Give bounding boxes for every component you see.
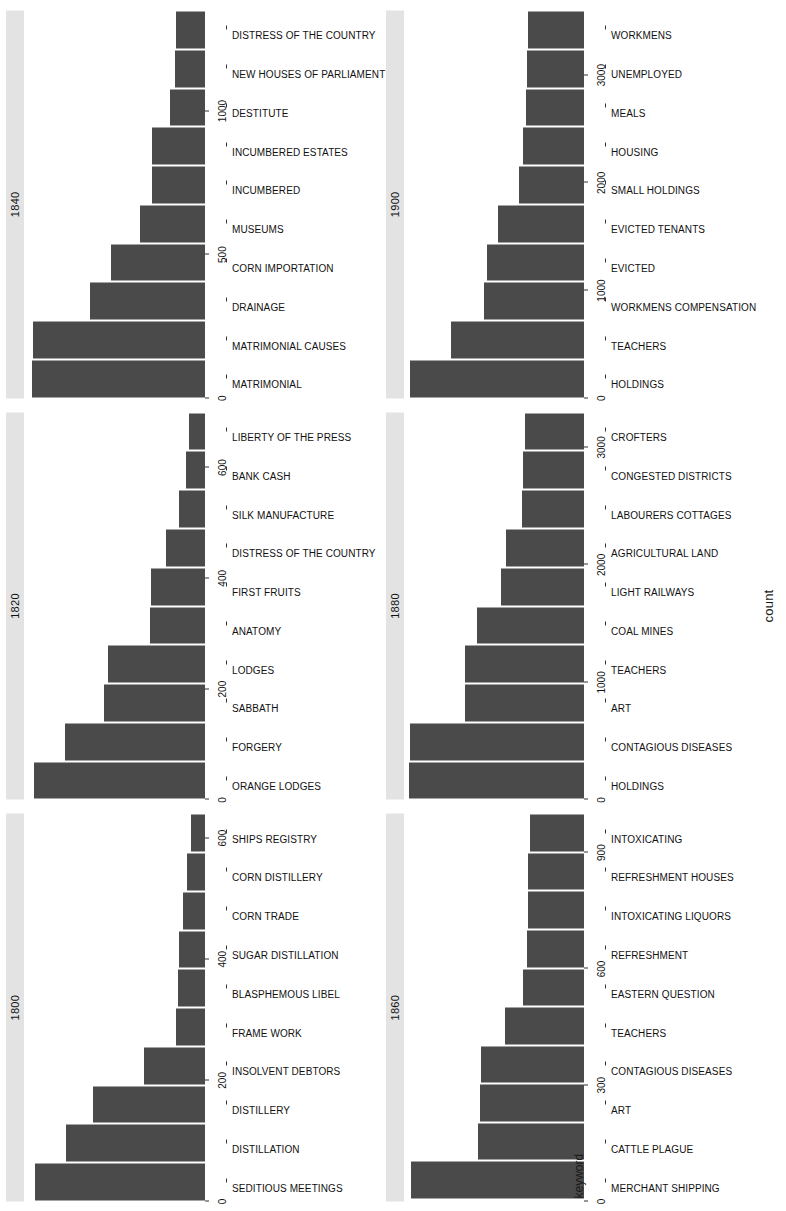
category-label: FRAME WORK <box>232 1027 302 1038</box>
facet-strip-label: 1860 <box>386 813 404 1201</box>
category-label: DISTRESS OF THE COUNTRY <box>232 547 376 558</box>
category-label: SHIPS REGISTRY <box>232 833 317 844</box>
category-label: CORN IMPORTATION <box>232 262 334 273</box>
bar <box>523 969 584 1006</box>
facet-panel-1900: 1900 0100020003000 HOLDINGSTEACHERSWORKM… <box>386 10 760 398</box>
x-tick-label: 3000 <box>596 436 607 458</box>
x-tick-mark <box>584 289 588 290</box>
category-tick-mark <box>226 737 227 741</box>
category-labels: ORANGE LODGESFORGERYSABBATHLODGESANATOMY… <box>230 412 380 800</box>
bar <box>525 413 584 450</box>
category-label: MATRIMONIAL <box>232 378 302 389</box>
category-label: FORGERY <box>232 741 282 752</box>
x-tick-label: 200 <box>217 1072 228 1089</box>
bar <box>140 205 204 242</box>
bar <box>111 244 205 281</box>
x-tick-mark <box>205 253 209 254</box>
category-label: SEDITIOUS MEETINGS <box>232 1182 343 1193</box>
category-tick-mark <box>226 466 227 470</box>
x-tick-mark <box>205 1079 209 1080</box>
category-label: MEALS <box>611 107 645 118</box>
x-tick-mark <box>584 74 588 75</box>
category-label: REFRESHMENT HOUSES <box>611 872 734 883</box>
x-tick-label: 0 <box>596 1198 607 1204</box>
x-tick-marks <box>205 813 217 1201</box>
category-label: TEACHERS <box>611 664 666 675</box>
category-tick-mark <box>226 906 227 910</box>
x-tick-marks <box>205 412 217 800</box>
category-label: ORANGE LODGES <box>232 780 321 791</box>
x-tick-mark <box>205 958 209 959</box>
category-label: HOLDINGS <box>611 378 664 389</box>
category-label: NEW HOUSES OF PARLIAMENT <box>232 68 385 79</box>
category-label: MERCHANT SHIPPING <box>611 1182 720 1193</box>
x-tick-mark <box>205 397 209 398</box>
bar <box>150 607 204 644</box>
category-tick-mark <box>226 1100 227 1104</box>
bar <box>527 50 584 87</box>
category-tick-mark <box>605 776 606 780</box>
x-tick-mark <box>584 1084 588 1085</box>
category-tick-mark <box>226 776 227 780</box>
facet-strip-label: 1840 <box>6 10 24 398</box>
bar <box>501 568 584 605</box>
category-label: DISTILLERY <box>232 1104 290 1115</box>
category-tick-mark <box>605 868 606 872</box>
category-label: WORKMENS <box>611 29 672 40</box>
category-tick-mark <box>605 1100 606 1104</box>
category-label: HOLDINGS <box>611 780 664 791</box>
category-label: CONGESTED DISTRICTS <box>611 470 732 481</box>
category-tick-mark <box>605 582 606 586</box>
category-tick-mark <box>605 25 606 29</box>
category-tick-mark <box>226 1178 227 1182</box>
x-tick-label: 400 <box>217 950 228 967</box>
category-labels: HOLDINGSTEACHERSWORKMENS COMPENSATIONEVI… <box>609 10 759 398</box>
category-label: INCUMBERED <box>232 184 300 195</box>
bar <box>151 568 205 605</box>
bar <box>410 723 584 760</box>
category-tick-mark <box>605 219 606 223</box>
x-tick-labels: 0200400600 <box>217 813 230 1201</box>
category-tick-mark <box>226 142 227 146</box>
figure-stage: 1800 0200400600 SEDITIOUS MEETINGSDISTIL… <box>0 0 786 1211</box>
bar <box>104 684 205 721</box>
facet-figure: 1800 0200400600 SEDITIOUS MEETINGSDISTIL… <box>0 0 786 1211</box>
category-tick-mark <box>226 660 227 664</box>
category-labels: SEDITIOUS MEETINGSDISTILLATIONDISTILLERY… <box>230 813 380 1201</box>
x-tick-mark <box>584 851 588 852</box>
x-axis-title: count <box>759 10 780 1201</box>
bar <box>480 1084 584 1121</box>
category-label: REFRESHMENT <box>611 949 688 960</box>
category-label: FIRST FRUITS <box>232 586 301 597</box>
x-tick-label: 200 <box>217 680 228 697</box>
bar <box>465 684 584 721</box>
category-tick-mark <box>226 64 227 68</box>
plot-area <box>24 10 205 398</box>
facet-grid: 1800 0200400600 SEDITIOUS MEETINGSDISTIL… <box>6 10 759 1201</box>
category-tick-mark <box>226 621 227 625</box>
x-tick-mark <box>205 837 209 838</box>
facet-panel-1860: 1860 keyword 0300600900 MERCHANT SHIPPIN… <box>386 813 760 1201</box>
category-tick-mark <box>226 103 227 107</box>
bar <box>152 166 204 203</box>
category-labels: MERCHANT SHIPPINGCATTLE PLAGUEARTCONTAGI… <box>609 813 759 1201</box>
plot-area <box>24 412 205 800</box>
category-tick-mark <box>605 660 606 664</box>
category-tick-mark <box>605 543 606 547</box>
category-tick-mark <box>226 505 227 509</box>
category-tick-mark <box>605 945 606 949</box>
x-tick-mark <box>205 110 209 111</box>
category-label: TEACHERS <box>611 1027 666 1038</box>
x-tick-mark <box>205 798 209 799</box>
category-tick-mark <box>605 180 606 184</box>
bar <box>178 969 205 1006</box>
category-labels: HOLDINGSCONTAGIOUS DISEASESARTTEACHERSCO… <box>609 412 759 800</box>
category-tick-mark <box>226 219 227 223</box>
category-tick-mark <box>226 945 227 949</box>
bar <box>90 282 204 319</box>
plot-area <box>404 412 585 800</box>
category-tick-mark <box>226 582 227 586</box>
bar <box>478 1123 584 1160</box>
category-tick-mark <box>226 336 227 340</box>
category-tick-mark <box>605 64 606 68</box>
